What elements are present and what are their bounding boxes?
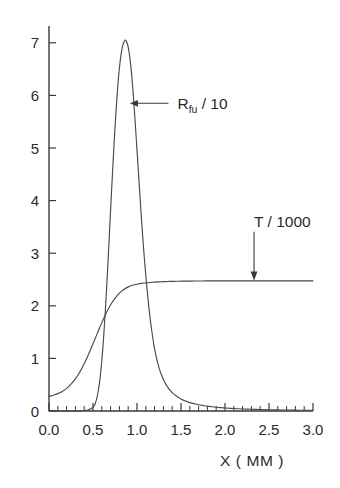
x-axis-title: X ( MM ) (220, 452, 284, 469)
y-tick-label: 1 (31, 350, 39, 367)
x-tick-label: 1.0 (127, 421, 148, 438)
x-tick-label: 0.5 (83, 421, 104, 438)
t-label: T / 1000 (254, 213, 311, 230)
chart-figure: 01234567 0.00.51.01.52.02.53.0 Rfu / 10T… (0, 0, 340, 488)
chart-canvas: 01234567 0.00.51.01.52.02.53.0 Rfu / 10T… (0, 0, 340, 488)
y-tick-label: 5 (31, 140, 39, 157)
x-tick-label: 3.0 (303, 421, 324, 438)
y-tick-label: 2 (31, 297, 39, 314)
x-tick-label: 2.5 (259, 421, 280, 438)
y-tick-label: 7 (31, 34, 39, 51)
x-tick-label: 1.5 (171, 421, 192, 438)
y-tick-label: 0 (31, 403, 39, 420)
plot-background (0, 0, 340, 488)
x-tick-label: 2.0 (215, 421, 236, 438)
y-tick-label: 4 (31, 192, 39, 209)
y-tick-label: 6 (31, 87, 39, 104)
x-tick-label: 0.0 (39, 421, 60, 438)
y-tick-label: 3 (31, 245, 39, 262)
